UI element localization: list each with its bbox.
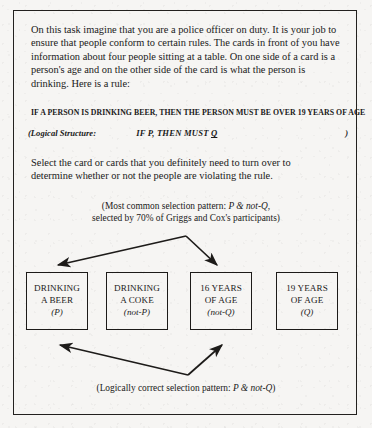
conditional-rule-statement: IF A PERSON IS DRINKING BEER, THEN THE P… bbox=[31, 108, 347, 117]
card-logic-label: (not-Q) bbox=[207, 306, 234, 319]
logical-structure-closing-paren: ) bbox=[345, 128, 348, 138]
card-line-1: 19 YEARS bbox=[286, 283, 328, 294]
most-common-selection-note: (Most common selection pattern: P & not-… bbox=[0, 200, 372, 224]
note-bottom-pattern: P & not-Q bbox=[233, 383, 272, 393]
card-16-years-of-age[interactable]: 16 YEARS OF AGE (not-Q) bbox=[190, 272, 252, 330]
note-bottom-prefix: (Logically correct selection pattern: bbox=[97, 383, 233, 393]
scanned-page: On this task imagine that you are a poli… bbox=[0, 0, 372, 428]
card-line-1: DRINKING bbox=[114, 283, 160, 294]
card-19-years-of-age[interactable]: 19 YEARS OF AGE (Q) bbox=[276, 272, 338, 330]
logically-correct-selection-note: (Logically correct selection pattern: P … bbox=[0, 382, 372, 394]
card-logic-label: (P) bbox=[51, 306, 63, 319]
logical-structure-line: ) (Logical Structure: IF P, THEN MUST Q bbox=[28, 128, 348, 138]
logical-structure-form-consequent: Q bbox=[211, 128, 217, 138]
note-top-prefix: (Most common selection pattern: bbox=[102, 201, 229, 211]
card-drinking-a-coke[interactable]: DRINKING A COKE (not-P) bbox=[106, 272, 168, 330]
card-drinking-a-beer[interactable]: DRINKING A BEER (P) bbox=[26, 272, 88, 330]
task-instruction: Select the card or cards that you defini… bbox=[31, 156, 331, 183]
intro-paragraph: On this task imagine that you are a poli… bbox=[31, 23, 343, 90]
note-bottom-line: (Logically correct selection pattern: P … bbox=[0, 382, 372, 394]
note-bottom-suffix: ) bbox=[272, 383, 275, 393]
card-line-2: OF AGE bbox=[291, 295, 324, 306]
note-top-pattern: P & not-Q bbox=[228, 201, 267, 211]
note-top-suffix: , bbox=[268, 201, 270, 211]
card-logic-label: (not-P) bbox=[124, 306, 150, 319]
card-line-2: OF AGE bbox=[205, 295, 238, 306]
most-common-selection-note-line2: selected by 70% of Griggs and Cox's part… bbox=[0, 212, 372, 224]
card-line-2: A COKE bbox=[120, 295, 154, 306]
card-logic-label: (Q) bbox=[301, 306, 314, 319]
card-line-1: 16 YEARS bbox=[200, 283, 242, 294]
logical-structure-form: IF P, THEN MUST Q bbox=[136, 128, 217, 138]
card-line-2: A BEER bbox=[41, 295, 73, 306]
logical-structure-form-prefix: IF P, THEN MUST bbox=[136, 128, 211, 138]
card-line-1: DRINKING bbox=[34, 283, 80, 294]
most-common-selection-note-line1: (Most common selection pattern: P & not-… bbox=[0, 200, 372, 212]
logical-structure-label: (Logical Structure: bbox=[28, 128, 96, 138]
